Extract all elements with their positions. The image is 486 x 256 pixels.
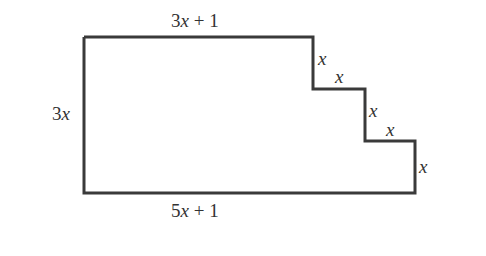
label-step1-horizontal: x	[335, 67, 343, 86]
label-step2-vertical: x	[369, 101, 377, 120]
label-step1-vertical: x	[318, 49, 326, 68]
label-step2-horizontal: x	[386, 120, 394, 139]
label-bottom: 5x + 1	[171, 201, 219, 220]
staircase-figure: 3x + 1 3x 5x + 1 x x x x x	[0, 0, 486, 256]
polygon-outline	[0, 0, 486, 256]
label-left: 3x	[52, 104, 70, 123]
label-right-vertical: x	[419, 157, 427, 176]
label-top: 3x + 1	[171, 11, 219, 30]
